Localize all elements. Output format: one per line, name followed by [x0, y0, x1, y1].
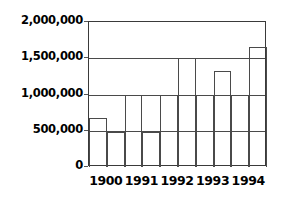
- y-axis-tick-mark: [84, 166, 88, 167]
- x-axis-tick-label: 1991: [121, 175, 161, 188]
- bar: [196, 95, 214, 168]
- bar: [160, 95, 178, 168]
- x-axis-tick-label: 1992: [157, 175, 197, 188]
- bar: [125, 95, 143, 168]
- bar: [107, 132, 125, 167]
- bar-separator: [160, 22, 161, 167]
- y-axis-tick-label: 500,000: [33, 124, 83, 136]
- bar-separator: [125, 22, 126, 167]
- bar-separator: [196, 22, 197, 167]
- x-axis-tick-label: 1993: [193, 175, 233, 188]
- bar: [249, 47, 267, 167]
- x-axis-tick-label: 1900: [86, 175, 126, 188]
- bar-chart: 0500,0001,000,0001,500,0002,000,000 1900…: [0, 0, 283, 201]
- bar: [142, 132, 160, 167]
- gridline: [89, 58, 265, 59]
- y-axis-tick-label: 1,500,000: [21, 51, 83, 63]
- y-axis-tick-label: 0: [75, 160, 83, 172]
- bar: [89, 118, 107, 167]
- y-axis-tick-label: 2,000,000: [21, 15, 83, 27]
- bar: [231, 95, 249, 168]
- x-axis-tick-label: 1994: [228, 175, 268, 188]
- bar: [178, 58, 196, 167]
- bar: [214, 71, 232, 167]
- plot-area: [88, 21, 266, 166]
- y-axis-tick-label: 1,000,000: [21, 88, 83, 100]
- bar-separator: [231, 22, 232, 167]
